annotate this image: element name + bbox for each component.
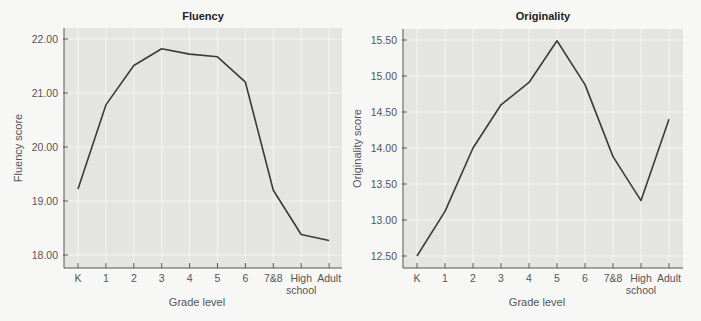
- y-tick-label: 19.00: [32, 195, 58, 207]
- x-tick-label: 5: [215, 272, 221, 284]
- x-tick-label: 2: [131, 272, 137, 284]
- x-tick-label: K: [413, 272, 420, 284]
- x-tick-label: 1: [103, 272, 109, 284]
- y-tick-label: 21.00: [32, 87, 58, 99]
- x-tick-label: 3: [159, 272, 165, 284]
- fluency-chart: Fluency18.0019.0020.0021.0022.00K1234567…: [0, 0, 350, 321]
- x-tick-label: 4: [526, 272, 532, 284]
- x-tick-label: 3: [498, 272, 504, 284]
- x-tick-label: 2: [470, 272, 476, 284]
- y-tick-label: 14.00: [371, 142, 397, 154]
- y-tick-label: 14.50: [371, 106, 397, 118]
- x-tick-label: High: [630, 272, 652, 284]
- y-tick-label: 20.00: [32, 141, 58, 153]
- y-tick-label: 22.00: [32, 33, 58, 45]
- x-tick-label: 4: [187, 272, 193, 284]
- x-tick-label: 6: [582, 272, 588, 284]
- originality-chart: Originality12.5013.0013.5014.0014.5015.0…: [350, 0, 701, 321]
- x-tick-label: school: [286, 284, 316, 296]
- chart-title: Fluency: [182, 10, 224, 22]
- x-tick-label: Adult: [657, 272, 681, 284]
- x-tick-label: High: [290, 272, 312, 284]
- y-tick-label: 12.50: [371, 250, 397, 262]
- x-tick-label: 5: [554, 272, 560, 284]
- x-tick-label: Adult: [317, 272, 341, 284]
- y-tick-label: 13.00: [371, 214, 397, 226]
- y-tick-label: 15.00: [371, 70, 397, 82]
- x-tick-label: 6: [242, 272, 248, 284]
- x-axis-title: Grade level: [169, 296, 225, 308]
- x-tick-label: 7&8: [604, 272, 623, 284]
- x-tick-label: school: [626, 284, 656, 296]
- y-tick-label: 18.00: [32, 249, 58, 261]
- x-tick-label: K: [74, 272, 81, 284]
- x-tick-label: 7&8: [264, 272, 283, 284]
- y-axis-title: Originality score: [351, 109, 363, 188]
- x-tick-label: 1: [442, 272, 448, 284]
- y-tick-label: 13.50: [371, 178, 397, 190]
- chart-title: Originality: [516, 10, 571, 22]
- x-axis-title: Grade level: [509, 296, 565, 308]
- y-axis-title: Fluency score: [12, 114, 24, 182]
- y-tick-label: 15.50: [371, 34, 397, 46]
